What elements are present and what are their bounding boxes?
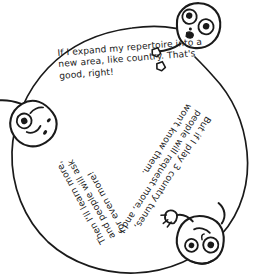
comic-canvas: If I expand my repertoire into a new are…	[0, 0, 255, 280]
